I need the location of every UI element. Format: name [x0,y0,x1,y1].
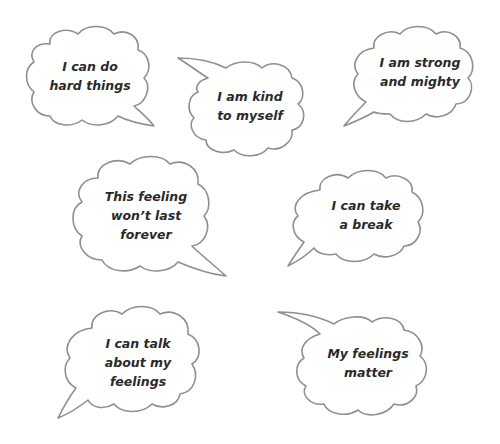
affirmation-line: matter [344,363,392,382]
affirmation-line: about my [105,353,171,372]
affirmation-line: I am strong [380,53,461,72]
speech-bubble-hard-things: I can do hard things [22,24,162,132]
affirmation-line: and mighty [380,72,460,91]
affirmation-line: won’t last [111,206,181,225]
affirmation-line: hard things [49,76,130,95]
affirmation-line: forever [120,225,171,244]
affirmation-line: I can talk [105,334,170,353]
affirmation-line: This feeling [105,187,187,206]
speech-bubble-feelings-matter: My feelings matter [276,310,452,422]
affirmation-line: I can take [332,196,401,215]
speech-bubble-strong-mighty: I am strong and mighty [344,26,480,130]
speech-bubble-wont-last: This feeling won’t last forever [66,156,228,280]
affirmation-line: My feelings [327,344,408,363]
affirmation-line: I can do [62,57,118,76]
speech-bubble-take-break: I can take a break [286,172,436,268]
affirmation-line: feelings [110,372,166,391]
affirmation-line: I am kind [217,87,282,106]
affirmation-line: a break [339,215,392,234]
affirmation-line: to myself [217,106,283,125]
speech-bubble-talk-feelings: I can talk about my feelings [56,306,206,430]
speech-bubble-kind-to-myself: I am kind to myself [176,56,316,160]
